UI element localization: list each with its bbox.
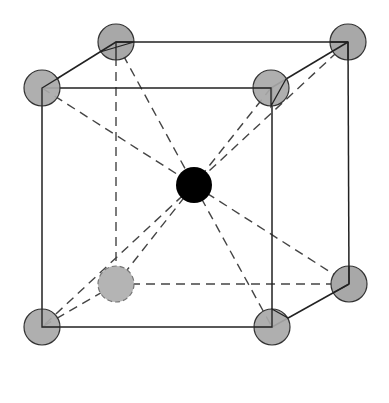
diagonal-front-bottom-left [42,185,194,327]
edge-back-right [348,42,349,284]
diagonal-front-bottom-right [194,185,272,327]
diagonal-back-top-right [194,42,348,185]
bcc-unit-cell-diagram [0,0,389,403]
diagonal-front-top-left [42,88,194,185]
atom-body-center [176,167,212,203]
diagonal-back-top-left [116,42,194,185]
diagonal-back-bottom-left [116,185,194,284]
front-face [42,88,272,327]
atom-back-bottom-left [98,266,134,302]
